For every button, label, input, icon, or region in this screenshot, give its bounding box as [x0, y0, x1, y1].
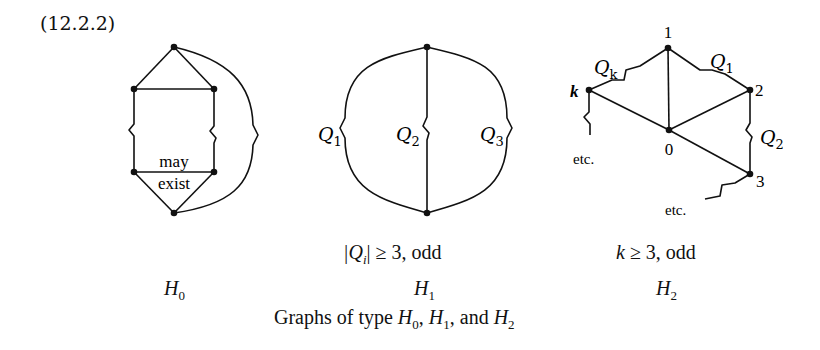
h2-condition: k ≥ 3, odd: [616, 241, 696, 264]
h1-condition: |Qi| ≥ 3, odd: [343, 241, 442, 268]
node-label-1: 1: [664, 23, 673, 42]
node: [211, 169, 218, 176]
exist-label: exist: [158, 174, 190, 193]
node-1: [665, 45, 672, 52]
node: [131, 169, 138, 176]
graph-figure: may exist Q1 Q2 Q3 1 k 2 0 3 Qk Q1 Q2 et…: [0, 0, 820, 350]
node-0: [666, 127, 673, 134]
path-label-qk: Qk: [594, 56, 618, 82]
may-label: may: [159, 152, 189, 171]
node: [211, 86, 218, 93]
node: [171, 210, 178, 217]
node: [424, 210, 431, 217]
h1-label: H1: [414, 277, 435, 304]
path-label-q1: Q1: [318, 123, 342, 149]
etc-label-3: etc.: [665, 202, 686, 218]
node-2: [747, 87, 754, 94]
h0-label: H0: [164, 277, 185, 304]
node-3: [747, 171, 754, 178]
node-label-k: k: [570, 82, 579, 101]
node-label-3: 3: [756, 172, 765, 191]
path-label-q2-h2: Q2: [760, 126, 784, 152]
path-label-q1-h2: Q1: [710, 50, 734, 76]
graph-h0: [129, 47, 258, 213]
path-label-q2: Q2: [396, 123, 420, 149]
node: [131, 86, 138, 93]
node-label-2: 2: [755, 81, 764, 100]
h2-label: H2: [656, 277, 677, 304]
node-label-0: 0: [665, 140, 674, 159]
node: [424, 44, 431, 51]
path-label-q3: Q3: [480, 123, 504, 149]
node: [171, 44, 178, 51]
node-k: [586, 87, 593, 94]
etc-label-k: etc.: [573, 151, 594, 167]
figure-caption: Graphs of type H0, H1, and H2: [274, 306, 515, 333]
